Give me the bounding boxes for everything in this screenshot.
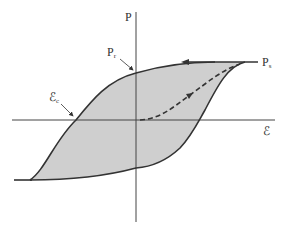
remanent-polarization-label: Pr — [107, 45, 117, 60]
saturation-polarization-label: Ps — [262, 55, 272, 70]
x-axis-label: ℰ — [263, 124, 270, 138]
hysteresis-diagram: P ℰ Pr Ps ℰc — [0, 0, 287, 231]
y-axis-label: P — [125, 10, 132, 24]
ec-pointer — [61, 104, 73, 116]
coercive-field-label: ℰc — [49, 90, 59, 105]
hysteresis-loop-fill — [30, 62, 245, 180]
pr-pointer — [120, 59, 133, 70]
